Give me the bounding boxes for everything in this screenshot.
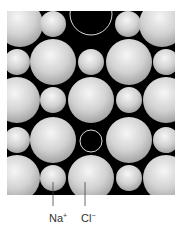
label-chloride-ion: Cl− [81, 212, 95, 224]
sodium-ion-sphere [115, 11, 141, 37]
sodium-ion-sphere [40, 87, 66, 113]
label-chloride-base: Cl [81, 212, 91, 224]
sodium-vacancy-ring [80, 130, 102, 152]
chloride-ion-sphere [106, 39, 152, 85]
label-chloride-charge: − [91, 212, 95, 219]
sodium-ion-sphere [4, 127, 30, 153]
sodium-ion-sphere [153, 49, 179, 75]
nacl-lattice-diagram [0, 0, 183, 230]
chloride-ion-sphere [68, 155, 114, 201]
sodium-ion-sphere [78, 49, 104, 75]
chloride-ion-sphere [30, 117, 76, 163]
chloride-ion-sphere [139, 1, 183, 47]
chloride-ion-sphere [106, 117, 152, 163]
sodium-ion-sphere [4, 49, 30, 75]
sodium-ion-sphere [153, 127, 179, 153]
label-sodium-base: Na [49, 212, 63, 224]
label-sodium-charge: + [63, 212, 67, 219]
chloride-ion-sphere [68, 77, 114, 123]
sodium-ion-sphere [40, 11, 66, 37]
label-sodium-ion: Na+ [49, 212, 67, 224]
ion-layer [0, 0, 183, 201]
sodium-ion-sphere [116, 87, 142, 113]
chloride-ion-sphere [30, 39, 76, 85]
sodium-ion-sphere [116, 165, 142, 191]
